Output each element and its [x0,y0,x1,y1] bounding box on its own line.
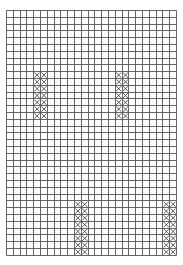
cross-stitch-grid [6,10,177,256]
grid-lines [7,11,177,256]
grid-canvas [6,10,177,256]
